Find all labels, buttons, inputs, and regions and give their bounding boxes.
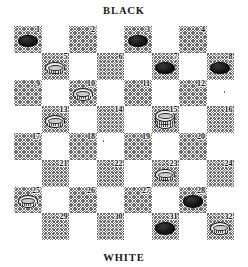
black-man-piece[interactable] bbox=[128, 33, 148, 47]
board-square-17[interactable]: 17 bbox=[14, 133, 42, 160]
board-square-light[interactable] bbox=[124, 213, 152, 240]
board-square-light[interactable] bbox=[207, 80, 235, 107]
board-square-13[interactable]: 13 bbox=[42, 106, 70, 133]
board-square-11[interactable]: 11 bbox=[124, 80, 152, 107]
white-side-label: WHITE bbox=[0, 252, 248, 263]
piece-disc bbox=[18, 35, 38, 48]
square-number-label: 1 bbox=[36, 26, 40, 35]
board-square-27[interactable]: 27 bbox=[124, 187, 152, 214]
board-square-light[interactable] bbox=[97, 133, 125, 160]
square-number-label: 23 bbox=[170, 160, 178, 169]
piece-disc bbox=[18, 195, 38, 208]
board-square-light[interactable] bbox=[69, 213, 97, 240]
board-square-light[interactable] bbox=[124, 53, 152, 80]
board-square-light[interactable] bbox=[207, 26, 235, 53]
board-square-light[interactable] bbox=[152, 187, 180, 214]
board-square-25[interactable]: 25 bbox=[14, 187, 42, 214]
board-square-24[interactable]: 24 bbox=[207, 160, 235, 187]
board-square-light[interactable] bbox=[207, 133, 235, 160]
board-square-3[interactable]: 3 bbox=[124, 26, 152, 53]
board-square-light[interactable] bbox=[179, 106, 207, 133]
board-square-8[interactable]: 8 bbox=[207, 53, 235, 80]
board-square-light[interactable] bbox=[152, 26, 180, 53]
square-number-label: 25 bbox=[32, 187, 40, 196]
board-square-light[interactable] bbox=[42, 187, 70, 214]
board-square-23[interactable]: 23 bbox=[152, 160, 180, 187]
board-square-light[interactable] bbox=[69, 160, 97, 187]
board-square-28[interactable]: 28 bbox=[179, 187, 207, 214]
square-number-label: 29 bbox=[60, 213, 68, 222]
piece-disc bbox=[155, 62, 175, 75]
black-man-piece[interactable] bbox=[155, 60, 175, 74]
board-square-30[interactable]: 30 bbox=[97, 213, 125, 240]
board-square-10[interactable]: 10 bbox=[69, 80, 97, 107]
square-number-label: 7 bbox=[174, 53, 178, 62]
board-square-light[interactable] bbox=[124, 106, 152, 133]
white-man-piece[interactable] bbox=[155, 167, 175, 181]
board-square-light[interactable] bbox=[179, 213, 207, 240]
board-square-7[interactable]: 7 bbox=[152, 53, 180, 80]
board-square-light[interactable] bbox=[207, 187, 235, 214]
square-number-label: 10 bbox=[87, 80, 95, 89]
square-number-label: 20 bbox=[197, 133, 205, 142]
board-square-light[interactable] bbox=[14, 213, 42, 240]
white-man-piece[interactable] bbox=[18, 194, 38, 208]
square-number-label: 4 bbox=[201, 26, 205, 35]
board-square-6[interactable]: 6 bbox=[97, 53, 125, 80]
board-square-15[interactable]: 15 bbox=[152, 106, 180, 133]
square-number-label: 31 bbox=[170, 213, 178, 222]
board-square-26[interactable]: 26 bbox=[69, 187, 97, 214]
board-square-light[interactable] bbox=[42, 133, 70, 160]
board-square-21[interactable]: 21 bbox=[42, 160, 70, 187]
board-square-light[interactable] bbox=[97, 26, 125, 53]
board-square-14[interactable]: 14 bbox=[97, 106, 125, 133]
square-number-label: 17 bbox=[32, 133, 40, 142]
board-square-light[interactable] bbox=[152, 133, 180, 160]
board-square-light[interactable] bbox=[69, 53, 97, 80]
board-square-1[interactable]: 1 bbox=[14, 26, 42, 53]
board-square-light[interactable] bbox=[14, 160, 42, 187]
white-man-piece[interactable] bbox=[73, 87, 93, 101]
black-man-piece[interactable] bbox=[18, 33, 38, 47]
board-square-light[interactable] bbox=[14, 53, 42, 80]
board-square-31[interactable]: 31 bbox=[152, 213, 180, 240]
board-square-light[interactable] bbox=[179, 160, 207, 187]
board-square-16[interactable]: 16 bbox=[207, 106, 235, 133]
board-square-20[interactable]: 20 bbox=[179, 133, 207, 160]
board-square-22[interactable]: 22 bbox=[97, 160, 125, 187]
board-square-9[interactable]: 9 bbox=[14, 80, 42, 107]
white-man-piece[interactable] bbox=[210, 221, 230, 235]
white-man-piece[interactable] bbox=[45, 60, 65, 74]
board-square-light[interactable] bbox=[97, 187, 125, 214]
square-number-label: 26 bbox=[87, 187, 95, 196]
black-man-piece[interactable] bbox=[210, 60, 230, 74]
diagram-root: BLACK 1234567891011121314151617181920212… bbox=[0, 0, 248, 267]
checkers-board[interactable]: 1234567891011121314151617181920212223242… bbox=[14, 26, 234, 240]
board-square-32[interactable]: 32 bbox=[207, 213, 235, 240]
piece-disc bbox=[155, 222, 175, 235]
board-square-12[interactable]: 12 bbox=[179, 80, 207, 107]
board-square-light[interactable] bbox=[14, 106, 42, 133]
board-square-light[interactable] bbox=[97, 80, 125, 107]
piece-disc bbox=[155, 169, 175, 182]
board-square-light[interactable] bbox=[152, 80, 180, 107]
white-man-piece[interactable] bbox=[45, 114, 65, 128]
board-square-19[interactable]: 19 bbox=[124, 133, 152, 160]
square-number-label: 6 bbox=[119, 53, 123, 62]
board-square-5[interactable]: 5 bbox=[42, 53, 70, 80]
black-man-piece[interactable] bbox=[155, 221, 175, 235]
square-number-label: 16 bbox=[225, 106, 233, 115]
square-number-label: 24 bbox=[225, 160, 233, 169]
board-square-light[interactable] bbox=[42, 80, 70, 107]
board-square-light[interactable] bbox=[124, 160, 152, 187]
board-square-4[interactable]: 4 bbox=[179, 26, 207, 53]
board-square-light[interactable] bbox=[69, 106, 97, 133]
board-square-2[interactable]: 2 bbox=[69, 26, 97, 53]
board-square-light[interactable] bbox=[42, 26, 70, 53]
square-number-label: 27 bbox=[142, 187, 150, 196]
board-square-29[interactable]: 29 bbox=[42, 213, 70, 240]
black-man-piece[interactable] bbox=[183, 194, 203, 208]
square-number-label: 13 bbox=[60, 106, 68, 115]
board-square-light[interactable] bbox=[179, 53, 207, 80]
board-square-18[interactable]: 18 bbox=[69, 133, 97, 160]
